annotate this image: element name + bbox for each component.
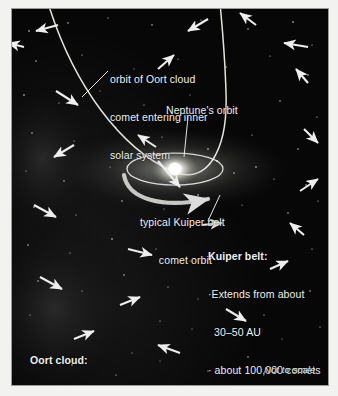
- label-neptune-orbit: Neptune's orbit: [166, 104, 238, 117]
- kuiper-belt-text-block: Kuiper belt: ·Extends from about 30–50 A…: [208, 225, 321, 386]
- label-line: solar system: [110, 149, 208, 162]
- not-to-scale-note: Not to scale: [264, 364, 315, 377]
- label-oort-comet-orbit: orbit of Oort cloud comet entering inner…: [110, 48, 208, 187]
- oort-cloud-heading: Oort cloud:: [30, 354, 200, 367]
- figure-container: orbit of Oort cloud comet entering inner…: [0, 0, 338, 396]
- label-line: orbit of Oort cloud: [110, 73, 208, 86]
- oort-cloud-text-block: Oort cloud: ·Extends out to about 50,000…: [30, 329, 200, 386]
- diagram-frame: orbit of Oort cloud comet entering inner…: [11, 8, 329, 386]
- kuiper-bullet-line: ·Extends from about: [208, 288, 321, 301]
- kuiper-bullet-line: 30–50 AU: [208, 326, 321, 339]
- kuiper-belt-heading: Kuiper belt:: [208, 250, 321, 263]
- leader-line-comet-orbit: [82, 71, 108, 97]
